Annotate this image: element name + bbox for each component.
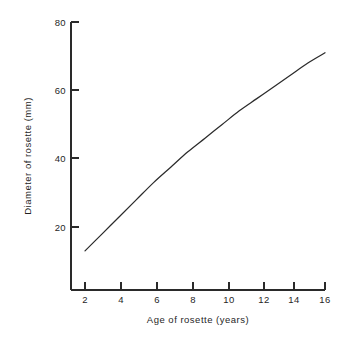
data-series-line bbox=[85, 53, 325, 251]
x-tick-label-12: 12 bbox=[258, 294, 269, 305]
y-tick-label-80: 80 bbox=[55, 17, 66, 28]
y-tick-label-20: 20 bbox=[55, 222, 66, 233]
x-tick-label-4: 4 bbox=[118, 294, 124, 305]
x-tick-label-8: 8 bbox=[190, 294, 196, 305]
x-tick-label-10: 10 bbox=[223, 294, 234, 305]
x-tick-label-14: 14 bbox=[288, 294, 299, 305]
x-tick-label-16: 16 bbox=[319, 294, 330, 305]
y-tick-label-40: 40 bbox=[55, 153, 66, 164]
x-tick-label-2: 2 bbox=[82, 294, 88, 305]
x-axis: 2 4 6 8 10 12 14 16 Age of rosette (year… bbox=[71, 282, 331, 325]
plot-area: 80 60 40 20 Diameter of rosette (mm) 2 4… bbox=[0, 0, 350, 338]
y-axis-title: Diameter of rosette (mm) bbox=[22, 97, 33, 215]
chart-figure: 80 60 40 20 Diameter of rosette (mm) 2 4… bbox=[0, 0, 350, 338]
x-axis-title: Age of rosette (years) bbox=[147, 314, 249, 325]
y-tick-label-60: 60 bbox=[55, 85, 66, 96]
x-tick-label-6: 6 bbox=[154, 294, 160, 305]
y-axis: 80 60 40 20 Diameter of rosette (mm) bbox=[22, 17, 79, 290]
